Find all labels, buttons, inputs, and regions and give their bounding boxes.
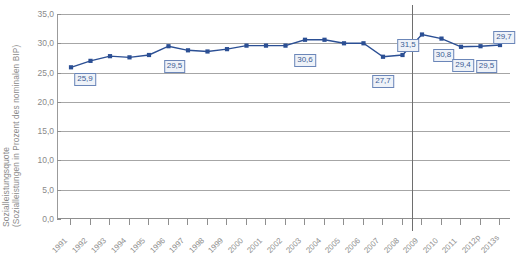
x-axis-tick-mark bbox=[129, 219, 130, 225]
data-point-marker bbox=[322, 38, 326, 42]
data-point-marker bbox=[420, 32, 424, 36]
x-axis-tick-label: 2003 bbox=[284, 236, 303, 255]
data-point-marker bbox=[225, 47, 229, 51]
x-axis-tick-mark bbox=[90, 219, 91, 225]
x-axis-tick-label: 2004 bbox=[304, 236, 323, 255]
data-point-marker bbox=[88, 59, 92, 63]
x-axis-tick-label: 2013s bbox=[479, 233, 501, 255]
data-point-marker bbox=[478, 44, 482, 48]
x-axis-tick-label: 2006 bbox=[343, 236, 362, 255]
x-axis-tick-mark bbox=[70, 219, 71, 225]
x-axis-tick-label: 1991 bbox=[50, 236, 69, 255]
y-axis-tick-label: 0,0 bbox=[30, 214, 54, 224]
x-axis-tick-mark bbox=[343, 219, 344, 225]
x-axis-tick-label: 1996 bbox=[148, 236, 167, 255]
x-axis-tick-mark bbox=[363, 219, 364, 225]
y-axis-tick-mark bbox=[57, 73, 61, 74]
x-axis-tick-mark bbox=[207, 219, 208, 225]
chart-container: Sozialleistungsquote (Sozialleistungen i… bbox=[0, 0, 518, 270]
y-axis-tick-mark bbox=[57, 14, 61, 15]
x-axis-tick-label: 2005 bbox=[323, 236, 342, 255]
x-axis-tick-mark bbox=[324, 219, 325, 225]
y-axis-tick-label: 30,0 bbox=[30, 38, 54, 48]
data-point-marker bbox=[127, 55, 131, 59]
x-axis-tick-label: 2000 bbox=[226, 236, 245, 255]
y-axis-title: Sozialleistungsquote (Sozialleistungen i… bbox=[0, 0, 30, 235]
y-axis-tick-mark bbox=[57, 190, 61, 191]
data-label: 30,8 bbox=[433, 49, 455, 62]
x-axis-ticks bbox=[57, 219, 509, 225]
data-point-marker bbox=[342, 41, 346, 45]
y-axis-tick-mark bbox=[57, 102, 61, 103]
x-axis-tick-label: 2010 bbox=[421, 236, 440, 255]
x-axis-tick-mark bbox=[441, 219, 442, 225]
x-axis-tick-label: 2008 bbox=[382, 236, 401, 255]
x-axis-tick-label: 1994 bbox=[109, 236, 128, 255]
x-axis-tick-label: 1995 bbox=[128, 236, 147, 255]
x-axis-tick-label: 1998 bbox=[187, 236, 206, 255]
data-point-marker bbox=[244, 44, 248, 48]
x-axis-tick-label: 2001 bbox=[245, 236, 264, 255]
x-axis-tick-mark bbox=[265, 219, 266, 225]
x-axis-tick-mark bbox=[304, 219, 305, 225]
data-label: 29,5 bbox=[164, 60, 186, 73]
x-axis-tick-label: 2007 bbox=[362, 236, 381, 255]
data-label: 30,6 bbox=[294, 54, 316, 67]
data-point-marker bbox=[108, 54, 112, 58]
x-axis-tick-labels: 1991199219931994199519961997199819992000… bbox=[57, 226, 517, 270]
x-axis-tick-mark bbox=[168, 219, 169, 225]
y-axis-title-secondary: (Sozialleistungen in Prozent des nominal… bbox=[11, 45, 21, 227]
y-axis-tick-mark bbox=[57, 219, 61, 220]
y-axis-tick-label: 25,0 bbox=[30, 68, 54, 78]
data-point-marker bbox=[147, 53, 151, 57]
data-label: 25,9 bbox=[74, 73, 96, 86]
x-axis-tick-mark bbox=[148, 219, 149, 225]
y-axis-title-primary: Sozialleistungsquote bbox=[1, 147, 11, 227]
y-axis-tick-mark bbox=[57, 43, 61, 44]
x-axis-tick-label: 1993 bbox=[89, 236, 108, 255]
data-point-marker bbox=[381, 55, 385, 59]
data-point-marker bbox=[283, 44, 287, 48]
x-axis-tick-label: 2012p bbox=[460, 233, 482, 255]
x-axis-tick-mark bbox=[382, 219, 383, 225]
data-point-marker bbox=[400, 53, 404, 57]
y-axis-tick-label: 20,0 bbox=[30, 97, 54, 107]
x-axis-tick-label: 2002 bbox=[265, 236, 284, 255]
x-axis-tick-mark bbox=[480, 219, 481, 225]
x-axis-tick-mark bbox=[226, 219, 227, 225]
x-axis-tick-mark bbox=[285, 219, 286, 225]
data-point-marker bbox=[205, 49, 209, 53]
data-label: 29,4 bbox=[452, 59, 474, 72]
y-axis-tick-label: 10,0 bbox=[30, 155, 54, 165]
x-axis-tick-mark bbox=[402, 219, 403, 225]
series-line-sozialleistungsquote bbox=[58, 14, 510, 219]
x-axis-tick-mark bbox=[499, 219, 500, 225]
x-axis-tick-mark bbox=[421, 219, 422, 225]
x-axis-tick-label: 2011 bbox=[440, 236, 459, 255]
x-axis-tick-mark bbox=[246, 219, 247, 225]
plot-area: 25,929,530,627,731,530,829,429,529,7 bbox=[57, 14, 509, 219]
y-axis-tick-mark bbox=[57, 160, 61, 161]
x-axis-tick-label: 1997 bbox=[167, 236, 186, 255]
data-point-marker bbox=[303, 38, 307, 42]
data-label: 27,7 bbox=[372, 75, 394, 88]
data-label: 31,5 bbox=[397, 39, 419, 52]
x-axis-tick-label: 1992 bbox=[70, 236, 89, 255]
data-point-marker bbox=[361, 41, 365, 45]
data-point-marker bbox=[264, 44, 268, 48]
x-axis-tick-mark bbox=[460, 219, 461, 225]
x-axis-tick-label: 2009 bbox=[401, 236, 420, 255]
data-point-marker bbox=[439, 37, 443, 41]
data-label: 29,7 bbox=[493, 31, 515, 44]
x-axis-tick-label: 1999 bbox=[206, 236, 225, 255]
data-label: 29,5 bbox=[476, 60, 498, 73]
y-axis-tick-label: 15,0 bbox=[30, 126, 54, 136]
y-axis-tick-mark bbox=[57, 131, 61, 132]
y-axis-tick-label: 5,0 bbox=[30, 185, 54, 195]
x-axis-tick-mark bbox=[109, 219, 110, 225]
data-point-marker bbox=[166, 44, 170, 48]
x-axis-tick-mark bbox=[187, 219, 188, 225]
y-axis-tick-label: 35,0 bbox=[30, 9, 54, 19]
data-point-marker bbox=[459, 45, 463, 49]
y-axis-tick-labels: 0,05,010,015,020,025,030,035,0 bbox=[28, 14, 54, 219]
